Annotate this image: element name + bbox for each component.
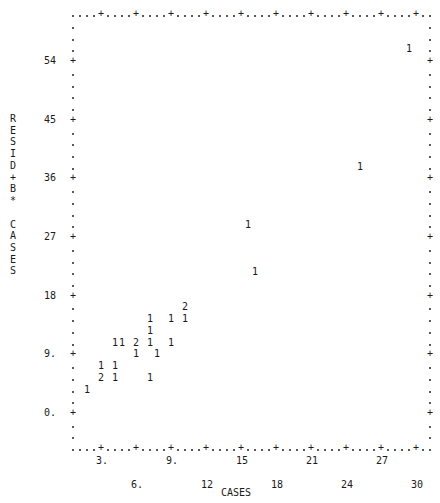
border-dot [429,379,431,381]
ruler-dot [289,15,291,17]
border-dot [72,86,74,88]
data-point: 2 [98,373,105,383]
ruler-dot [387,15,389,17]
data-point: 1 [112,338,119,348]
border-dot [72,308,74,310]
y-axis-title-char: D [10,161,17,171]
border-dot [72,39,74,41]
x-tick-mark: + [238,9,245,19]
ruler-dot [177,15,179,17]
ruler-dot [72,449,74,451]
border-dot [72,156,74,158]
border-dot [72,133,74,135]
ruler-dot [121,15,123,17]
y-tick-label: 18 [16,291,56,301]
ruler-dot [198,449,200,451]
y-tick-mark: + [427,408,434,418]
y-tick-mark: + [70,291,77,301]
data-point: 1 [154,349,161,359]
ruler-dot [317,15,319,17]
ruler-dot [429,15,431,17]
ruler-dot [114,15,116,17]
x-tick-mark: + [378,9,385,19]
data-point: 1 [357,162,364,172]
data-point: 1 [84,385,91,395]
border-dot [429,226,431,228]
ruler-dot [149,449,151,451]
y-tick-mark: + [427,291,434,301]
border-dot [429,273,431,275]
y-axis-title-char: R [10,114,17,124]
border-dot [429,391,431,393]
x-tick-mark: + [273,9,280,19]
ruler-dot [128,449,130,451]
data-point: 1 [182,314,189,324]
ruler-dot [254,449,256,451]
ruler-dot [107,15,109,17]
ruler-dot [191,15,193,17]
ruler-dot [366,449,368,451]
ruler-dot [86,15,88,17]
ruler-dot [72,15,74,17]
ruler-dot [331,15,333,17]
ruler-dot [387,449,389,451]
x-tick-label: 24 [341,480,353,490]
border-dot [72,109,74,111]
ruler-dot [373,15,375,17]
ruler-dot [303,15,305,17]
x-tick-mark: + [168,9,175,19]
border-dot [72,215,74,217]
y-tick-mark: + [427,173,434,183]
border-dot [72,426,74,428]
y-tick-label: 9. [16,349,56,359]
border-dot [72,74,74,76]
border-dot [429,191,431,193]
y-tick-mark: + [70,349,77,359]
y-axis-title-char: S [10,243,17,253]
ruler-dot [184,15,186,17]
ruler-dot [282,15,284,17]
y-tick-label: 54 [16,56,56,66]
border-dot [72,367,74,369]
ruler-dot [212,449,214,451]
border-dot [429,50,431,52]
ruler-dot [212,15,214,17]
ruler-dot [156,449,158,451]
x-tick-mark: + [133,443,140,453]
border-dot [72,97,74,99]
ruler-dot [394,15,396,17]
x-axis-title: CASES [221,488,251,498]
y-tick-mark: + [427,56,434,66]
y-axis-title-char: E [10,126,17,136]
x-tick-mark: + [413,443,420,453]
ruler-dot [163,15,165,17]
data-point: 1 [168,314,175,324]
border-dot [72,273,74,275]
border-dot [72,144,74,146]
ruler-dot [86,449,88,451]
ruler-dot [352,15,354,17]
ruler-dot [247,449,249,451]
data-point: 1 [406,44,413,54]
ruler-dot [331,449,333,451]
ruler-dot [198,15,200,17]
border-dot [429,367,431,369]
y-axis-title-char: + [10,173,17,183]
ruler-dot [408,15,410,17]
x-tick-mark: + [98,9,105,19]
ruler-dot [247,15,249,17]
x-tick-label: 6. [131,480,143,490]
x-tick-label: 15 [236,456,248,466]
x-tick-mark: + [98,443,105,453]
ruler-dot [184,449,186,451]
ruler-dot [121,449,123,451]
ruler-dot [261,449,263,451]
x-tick-mark: + [203,443,210,453]
data-point: 1 [168,338,175,348]
ruler-dot [359,15,361,17]
x-tick-mark: + [168,443,175,453]
border-dot [429,426,431,428]
ruler-dot [303,449,305,451]
y-tick-label: 36 [16,173,56,183]
border-dot [429,308,431,310]
